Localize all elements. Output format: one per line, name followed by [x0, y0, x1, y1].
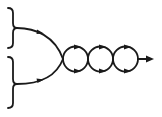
loop-3	[113, 47, 138, 72]
upper-brace	[8, 8, 17, 48]
lower-brace	[8, 57, 17, 108]
upper-input-arrow-icon	[37, 30, 45, 35]
loop-3-top-arrow-icon	[124, 45, 131, 50]
loop-3-bottom-arrow-icon	[124, 69, 131, 74]
loop-diagram	[0, 0, 162, 117]
loop-1-bottom-arrow-icon	[74, 69, 81, 74]
loop-1-top-arrow-icon	[74, 45, 81, 50]
loop-2-bottom-arrow-icon	[99, 69, 106, 74]
loop-2-top-arrow-icon	[99, 45, 106, 50]
loop-2	[88, 47, 113, 72]
loop-1	[63, 47, 88, 72]
output-arrow-icon	[146, 56, 154, 63]
